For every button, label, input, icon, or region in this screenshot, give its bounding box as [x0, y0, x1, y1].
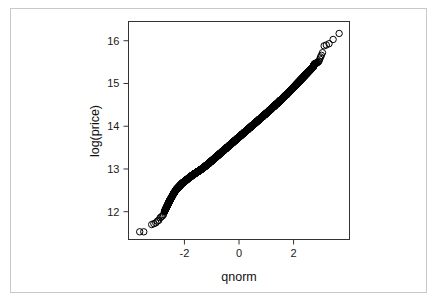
y-tick-label: 15 [107, 77, 119, 89]
qq-plot-svg: -202 1213141516 qnorm log(price) [0, 0, 436, 305]
x-tick-label: -2 [180, 247, 190, 259]
data-point [141, 229, 147, 235]
x-axis-title: qnorm [221, 270, 256, 284]
y-tick-label: 13 [107, 163, 119, 175]
scatter-points [136, 30, 342, 235]
y-axis-tick-labels: 1213141516 [107, 35, 119, 218]
plot-box-border [129, 22, 350, 240]
y-axis-ticks [124, 41, 129, 212]
x-axis-ticks [184, 240, 293, 245]
figure-container: -202 1213141516 qnorm log(price) [0, 0, 436, 305]
y-tick-label: 12 [107, 206, 119, 218]
x-tick-label: 0 [236, 247, 242, 259]
y-tick-label: 16 [107, 35, 119, 47]
plot-frame [129, 22, 350, 240]
x-axis-tick-labels: -202 [180, 247, 297, 259]
y-tick-label: 14 [107, 120, 119, 132]
data-point [336, 30, 342, 36]
x-tick-label: 2 [291, 247, 297, 259]
data-point [330, 36, 336, 42]
plot-area: -202 1213141516 qnorm log(price) [0, 0, 436, 305]
y-axis-title: log(price) [88, 105, 102, 157]
